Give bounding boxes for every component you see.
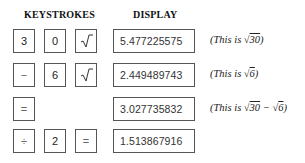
key-0[interactable]: 0 xyxy=(44,29,66,53)
square-root-icon xyxy=(80,68,93,82)
annotation-suffix: ) xyxy=(260,34,264,45)
key-sqrt[interactable] xyxy=(75,63,97,87)
radicand: 30 xyxy=(250,34,261,45)
minus-sign: − xyxy=(260,102,272,113)
row-3: = 3.027735832 (This is √30 − √6) xyxy=(0,97,305,123)
annotation-prefix: (This is xyxy=(210,68,244,79)
key-sqrt[interactable] xyxy=(75,29,97,53)
display-header: DISPLAY xyxy=(133,9,177,20)
key-equals[interactable]: = xyxy=(75,129,97,153)
key-2[interactable]: 2 xyxy=(44,129,66,153)
display-value: 1.513867916 xyxy=(113,129,195,153)
display-value: 2.449489743 xyxy=(113,63,195,87)
row-4: ÷ 2 = 1.513867916 xyxy=(0,129,305,155)
key-divide[interactable]: ÷ xyxy=(13,129,35,153)
annotation: (This is √30 − √6) xyxy=(210,102,287,113)
annotation-prefix: (This is xyxy=(210,102,244,113)
annotation-prefix: (This is xyxy=(210,34,244,45)
square-root-icon xyxy=(80,34,93,48)
annotation: (This is √30) xyxy=(210,34,264,45)
key-6[interactable]: 6 xyxy=(44,63,66,87)
row-1: 3 0 5.477225575 (This is √30) xyxy=(0,29,305,55)
display-value: 3.027735832 xyxy=(113,97,195,121)
display-value: 5.477225575 xyxy=(113,29,195,53)
annotation-suffix: ) xyxy=(255,68,259,79)
annotation-suffix: ) xyxy=(283,102,287,113)
annotation: (This is √6) xyxy=(210,68,258,79)
radicand: 30 xyxy=(250,102,261,113)
key-equals[interactable]: = xyxy=(13,97,35,121)
key-minus[interactable]: − xyxy=(13,63,35,87)
row-2: − 6 2.449489743 (This is √6) xyxy=(0,63,305,89)
key-3[interactable]: 3 xyxy=(13,29,35,53)
keystrokes-header: KEYSTROKES xyxy=(24,9,95,20)
